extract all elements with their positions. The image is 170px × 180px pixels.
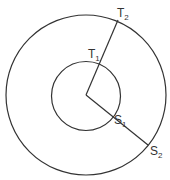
- label-t2: T2: [117, 6, 129, 22]
- label-s1: S1: [114, 113, 127, 129]
- inner-circle: [52, 62, 121, 131]
- concentric-circles-diagram: T2 T1 S1 S2: [0, 0, 170, 180]
- label-t1: T1: [88, 47, 100, 63]
- label-s2: S2: [150, 144, 163, 160]
